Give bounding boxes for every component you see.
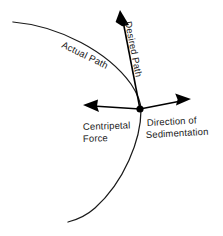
particle-point	[136, 105, 143, 112]
centrifugation-diagram: Actual Path Desired Path Centripetal For…	[0, 0, 223, 236]
label-sedimentation-line2: Sedimentation	[146, 126, 209, 140]
label-centripetal-force-line1: Centripetal	[83, 119, 131, 132]
centripetal-force-arrowhead-icon	[83, 100, 99, 113]
sedimentation-line	[140, 101, 181, 109]
label-actual-path: Actual Path	[60, 39, 110, 71]
sedimentation-arrowhead-icon	[175, 94, 191, 106]
diagram-canvas: Actual Path Desired Path Centripetal For…	[0, 0, 223, 236]
label-centripetal-force-line2: Force	[83, 132, 108, 144]
label-desired-path: Desired Path	[123, 20, 145, 78]
centripetal-force-line	[93, 106, 140, 109]
